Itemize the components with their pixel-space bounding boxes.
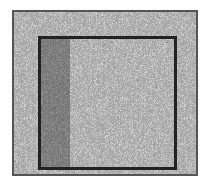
noisy-frame-image (0, 0, 210, 192)
outer-frame (12, 10, 198, 176)
inner-frame (38, 36, 177, 170)
